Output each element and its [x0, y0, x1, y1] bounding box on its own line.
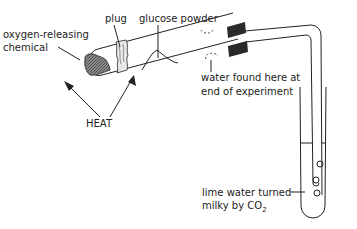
water-droplet-upper: [201, 28, 213, 33]
label-heat: HEAT: [86, 118, 113, 129]
leader-chemical: [58, 47, 80, 60]
bung-upper: [227, 22, 246, 38]
heat-arrows: [64, 75, 136, 117]
label-plug: plug: [105, 13, 127, 24]
oxygen-releasing-chemical: [85, 54, 110, 75]
plug: [116, 40, 128, 73]
label-lime-water-line1: lime water turned: [202, 187, 291, 198]
label-lime-water-line2: milky by CO2: [202, 200, 267, 214]
experiment-diagram: oxygen-releasing chemical plug glucose p…: [0, 0, 357, 229]
delivery-tube: [245, 25, 322, 195]
water-droplet-lower: [206, 53, 218, 59]
label-oxygen-releasing-line1: oxygen-releasing: [3, 29, 89, 40]
bung-lower: [228, 41, 248, 57]
label-glucose-powder: glucose powder: [139, 13, 219, 24]
label-oxygen-releasing-line2: chemical: [3, 42, 48, 53]
label-water-line1: water found here at: [201, 72, 300, 83]
label-water-line2: end of experiment: [201, 86, 293, 97]
